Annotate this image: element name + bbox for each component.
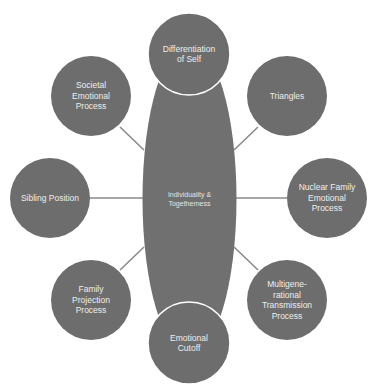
node-circle-triangles	[247, 56, 327, 136]
node-circle-societal-emotional-process	[51, 56, 131, 136]
connector-line-to-family-projection	[120, 247, 144, 270]
diagram-canvas	[0, 0, 379, 391]
node-circle-differentiation-of-self	[148, 13, 230, 95]
node-circle-sibling-position	[10, 158, 90, 238]
bowen-theory-diagram: Individuality & Togetherness Differentia…	[0, 0, 379, 391]
node-circle-multigenerational-transmission-process	[247, 260, 327, 340]
connector-line-to-triangles	[234, 127, 258, 150]
node-circle-family-projection-process	[51, 260, 131, 340]
connector-line-to-societal	[120, 127, 144, 150]
node-circle-emotional-cutoff	[148, 302, 230, 384]
node-circle-nuclear-family-emotional-process	[287, 158, 367, 238]
connector-line-to-multigenerational	[234, 247, 258, 270]
